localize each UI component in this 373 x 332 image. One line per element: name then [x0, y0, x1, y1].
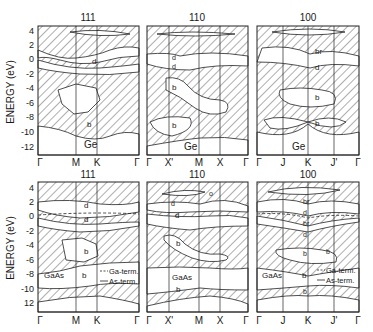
svg-text:b: b	[303, 288, 307, 295]
svg-text:-2: -2	[26, 226, 34, 236]
svg-text:b: b	[176, 285, 181, 294]
svg-text:M: M	[195, 315, 203, 326]
svg-text:Ge: Ge	[292, 141, 306, 152]
svg-text:b: b	[176, 239, 181, 248]
svg-text:-8: -8	[26, 269, 34, 279]
svg-text:X': X'	[165, 157, 174, 168]
svg-text:Ga-term.: Ga-term.	[326, 266, 356, 275]
svg-text:br: br	[315, 47, 322, 56]
svg-text:K: K	[94, 157, 101, 168]
svg-text:br: br	[303, 198, 310, 205]
svg-text:d: d	[84, 201, 88, 210]
svg-text:X': X'	[165, 315, 174, 326]
y-axis-label-bottom: ENERGY (eV)	[5, 216, 16, 280]
svg-text:-4: -4	[26, 83, 34, 93]
svg-text:J: J	[281, 315, 286, 326]
panel-gaas-100: 100 br d br d b b b b GaAs Ga-term. As-t…	[256, 169, 361, 326]
svg-text:Ge: Ge	[184, 141, 198, 152]
panel-title: 111	[80, 12, 96, 23]
svg-text:Γ: Γ	[37, 157, 43, 168]
svg-text:4: 4	[29, 183, 34, 193]
svg-text:J: J	[281, 157, 286, 168]
svg-text:K: K	[305, 157, 312, 168]
svg-text:d: d	[92, 57, 96, 66]
material-label: Ge	[84, 139, 98, 150]
svg-text:J': J'	[331, 157, 338, 168]
panel-gaas-111: 111 d d b b GaAs Ga-term. As-term. Γ M K…	[37, 169, 140, 326]
svg-text:K: K	[305, 315, 312, 326]
svg-text:-12: -12	[21, 142, 34, 152]
svg-text:110: 110	[189, 169, 205, 180]
svg-text:X: X	[217, 315, 224, 326]
y-ticks-top: 4 2 0 -2 -4 -6 -8 -10 -12	[21, 26, 34, 152]
svg-text:100: 100	[300, 12, 317, 23]
svg-text:0: 0	[29, 54, 34, 64]
svg-text:-10: -10	[21, 127, 34, 137]
svg-text:b: b	[315, 119, 320, 128]
svg-text:Γ: Γ	[134, 157, 140, 168]
svg-text:GaAs: GaAs	[172, 273, 192, 282]
svg-text:o: o	[209, 190, 213, 197]
svg-text:Γ: Γ	[243, 157, 249, 168]
svg-text:Γ: Γ	[256, 157, 262, 168]
panel-ge-100: 100 br d b b Ge Γ J K J' Γ	[256, 12, 361, 168]
material-label: GaAs	[44, 271, 64, 280]
svg-text:b: b	[302, 271, 307, 280]
band-structure-figure: ENERGY (eV) ENERGY (eV) 4 2 0 -2 -4 -6 -…	[0, 0, 373, 332]
svg-text:Γ: Γ	[146, 315, 152, 326]
svg-text:GaAs: GaAs	[262, 271, 282, 280]
svg-text:Γ: Γ	[134, 315, 140, 326]
svg-text:X: X	[217, 157, 224, 168]
svg-text:Γ: Γ	[146, 157, 152, 168]
svg-text:-10: -10	[21, 284, 34, 294]
svg-text:Γ: Γ	[355, 157, 361, 168]
svg-text:d: d	[315, 63, 319, 72]
svg-text:M: M	[72, 157, 80, 168]
svg-text:100: 100	[300, 169, 317, 180]
svg-text:2: 2	[29, 197, 34, 207]
y-ticks-bottom: 4 2 0 -2 -4 -6 -8 -10 12	[21, 183, 34, 308]
svg-text:0: 0	[29, 211, 34, 221]
svg-text:b: b	[172, 121, 177, 130]
svg-text:M: M	[195, 157, 203, 168]
y-axis-label-top: ENERGY (eV)	[5, 60, 16, 124]
svg-text:b: b	[303, 250, 307, 257]
svg-text:12: 12	[24, 298, 34, 308]
svg-text:110: 110	[189, 12, 205, 23]
svg-text:-4: -4	[26, 240, 34, 250]
svg-text:K: K	[94, 315, 101, 326]
svg-text:d: d	[303, 231, 307, 238]
svg-text:Γ: Γ	[37, 315, 43, 326]
k-point-labels: Γ M K Γ	[37, 157, 140, 168]
svg-text:b: b	[87, 120, 92, 129]
svg-text:d: d	[84, 215, 88, 224]
svg-text:As-term.: As-term.	[326, 276, 354, 285]
svg-text:-2: -2	[26, 69, 34, 79]
svg-text:-6: -6	[26, 98, 34, 108]
svg-text:Γ: Γ	[243, 315, 249, 326]
svg-text:b: b	[326, 248, 330, 255]
svg-text:-6: -6	[26, 255, 34, 265]
legend-as-term: As-term.	[109, 277, 137, 286]
svg-text:d: d	[171, 200, 175, 207]
svg-text:d: d	[172, 54, 176, 61]
svg-text:M: M	[72, 315, 80, 326]
svg-text:d: d	[303, 209, 307, 216]
legend-ga-term: Ga-term.	[109, 267, 139, 276]
svg-text:4: 4	[29, 26, 34, 36]
svg-text:b: b	[84, 247, 89, 256]
svg-text:2: 2	[29, 40, 34, 50]
panel-gaas-110: 110 d d b b o GaAs Γ X' M X Γ	[146, 169, 249, 326]
panel-ge-111: 111 d b Ge Γ M K Γ	[37, 12, 140, 168]
svg-text:J': J'	[331, 315, 338, 326]
panel-ge-110: 110 d d b b Ge Γ X' M X Γ	[146, 12, 249, 168]
svg-text:-8: -8	[26, 112, 34, 122]
svg-text:Γ: Γ	[355, 315, 361, 326]
svg-text:b: b	[82, 271, 87, 280]
svg-text:Γ: Γ	[256, 315, 262, 326]
svg-text:111: 111	[80, 169, 96, 180]
svg-text:br: br	[303, 220, 310, 227]
svg-text:d: d	[175, 211, 179, 220]
svg-text:d: d	[172, 63, 176, 70]
svg-text:b: b	[172, 83, 177, 92]
